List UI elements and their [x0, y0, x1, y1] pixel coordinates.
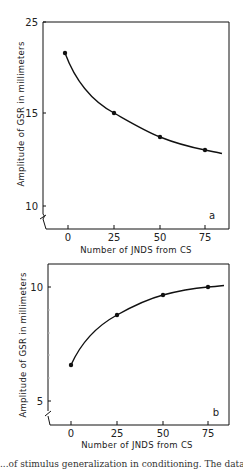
chart-b-xtick-0: 0 — [68, 428, 74, 439]
chart-b-point — [161, 293, 165, 297]
chart-b-axis-break-icon — [45, 411, 51, 425]
chart-a-xtick-75: 75 — [199, 232, 212, 243]
chart-a-curve — [65, 53, 222, 154]
chart-a-point — [158, 135, 162, 139]
chart-a-point — [63, 51, 67, 55]
chart-b-xtick-75: 75 — [202, 428, 215, 439]
chart-b-xtick-50: 50 — [157, 428, 170, 439]
chart-b-ylabel: Amplitude of GSR in millimeters — [18, 272, 28, 417]
chart-b-xtick-25: 25 — [111, 428, 124, 439]
chart-b-point — [69, 363, 73, 367]
chart-b-panel-label: b — [213, 407, 219, 418]
chart-a-ytick-25: 25 — [25, 17, 38, 28]
chart-b-ytick-10: 10 — [30, 282, 43, 293]
chart-a-xtick-50: 50 — [154, 232, 167, 243]
chart-a-xlabel: Number of JNDS from CS — [80, 245, 192, 255]
chart-a-point — [112, 111, 116, 115]
chart-a-axis-break-icon — [40, 214, 46, 229]
chart-a-ylabel: Amplitude of GSR in millimeters — [16, 41, 26, 186]
chart-b-xlabel: Number of JNDS from CS — [81, 440, 193, 450]
figure: 25 15 10 0 25 50 75 Number of JNDS from … — [0, 0, 243, 471]
chart-b-point — [206, 285, 210, 289]
chart-a-point — [203, 148, 207, 152]
caption-text: ...of stimulus generalization in conditi… — [0, 459, 243, 469]
chart-a-xtick-25: 25 — [108, 232, 121, 243]
chart-a-panel-label: a — [209, 210, 215, 221]
chart-a: 25 15 10 0 25 50 75 Number of JNDS from … — [16, 17, 229, 255]
chart-a-ytick-15: 15 — [25, 108, 38, 119]
chart-b-point — [115, 313, 119, 317]
chart-b-curve — [71, 286, 224, 366]
chart-b-ytick-5: 5 — [37, 396, 43, 407]
chart-a-ytick-10: 10 — [25, 201, 38, 212]
chart-b: 10 5 0 25 50 75 Number of JNDS from CS A… — [18, 264, 229, 450]
chart-a-xtick-0: 0 — [65, 232, 71, 243]
